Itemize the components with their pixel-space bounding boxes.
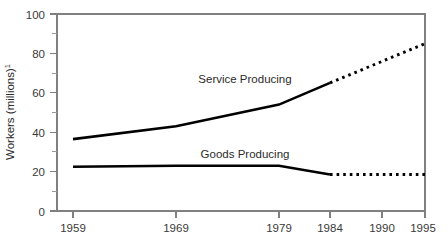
x-tick-label-1979: 1979: [266, 222, 292, 234]
y-axis-title: Workers (millions)1: [3, 64, 17, 160]
x-tick-label-1990: 1990: [369, 222, 395, 234]
series-goods-producing: [73, 166, 425, 175]
y-axis-minor-ticks: [52, 34, 57, 192]
y-tick-label-0: 0: [39, 206, 45, 218]
series-annotations: Service Producing Goods Producing: [198, 73, 291, 160]
goods-producing-solid-line: [73, 166, 330, 175]
goods-producing-label: Goods Producing: [201, 148, 290, 160]
y-axis-title-text: Workers (millions): [4, 68, 16, 160]
series-service-producing: [73, 44, 425, 140]
service-producing-solid-line: [73, 83, 330, 139]
service-producing-dotted-line: [330, 44, 425, 83]
chart-figure: 100 80 60 40 20 0 1959 1969 1979 1984 19…: [0, 0, 448, 245]
y-tick-label-60: 60: [32, 87, 45, 99]
x-axis-ticks: [73, 211, 425, 218]
x-tick-label-1959: 1959: [60, 222, 86, 234]
y-tick-label-20: 20: [32, 166, 45, 178]
y-axis-title-superscript: 1: [3, 64, 12, 68]
y-axis-tick-labels: 100 80 60 40 20 0: [26, 9, 45, 218]
y-tick-label-40: 40: [32, 127, 45, 139]
y-tick-label-80: 80: [32, 48, 45, 60]
x-axis-tick-labels: 1959 1969 1979 1984 1990 1995: [60, 222, 436, 234]
x-tick-label-1984: 1984: [317, 222, 343, 234]
y-axis-title-group: Workers (millions)1: [3, 64, 17, 160]
x-tick-label-1995: 1995: [410, 222, 436, 234]
x-tick-label-1969: 1969: [163, 222, 189, 234]
line-chart: 100 80 60 40 20 0 1959 1969 1979 1984 19…: [0, 0, 448, 245]
y-tick-label-100: 100: [26, 9, 45, 21]
service-producing-label: Service Producing: [198, 73, 291, 85]
